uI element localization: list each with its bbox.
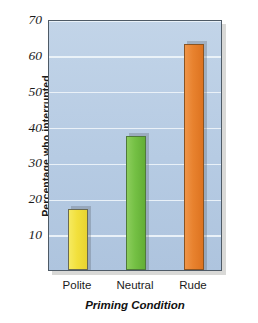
y-tick-label: 50 — [0, 85, 42, 99]
y-tick-label: 60 — [0, 49, 42, 63]
gridline — [49, 20, 221, 21]
plot-area — [48, 20, 222, 271]
y-tick-label: 20 — [0, 193, 42, 207]
x-tick-label: Polite — [63, 279, 92, 291]
x-tick-label: Rude — [179, 279, 207, 291]
bar-neutral — [126, 136, 146, 270]
y-tick-label: 40 — [0, 121, 42, 135]
bar-chart-figure: Percentage who interrupted 1020304050607… — [0, 0, 258, 323]
x-tick-label: Neutral — [116, 279, 153, 291]
y-tick-label: 70 — [0, 13, 42, 27]
bar-polite — [68, 209, 88, 270]
bar-rude — [184, 44, 204, 270]
x-axis-title: Priming Condition — [48, 299, 222, 311]
y-axis-tick-labels: 10203040506070 — [0, 0, 45, 323]
y-tick-label: 10 — [0, 228, 42, 242]
y-tick-label: 30 — [0, 157, 42, 171]
